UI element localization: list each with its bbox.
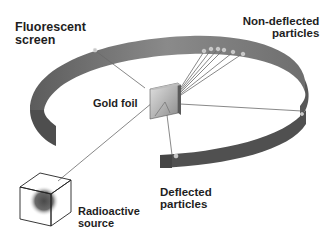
rutherford-gold-foil-diagram: Fluorescent screen Non-deflected particl… bbox=[0, 0, 329, 245]
label-deflected-particles: Deflected particles bbox=[160, 186, 212, 210]
label-line: screen bbox=[15, 34, 86, 47]
label-line: particles bbox=[232, 27, 319, 39]
label-line: Deflected bbox=[160, 186, 212, 198]
label-line: source bbox=[78, 218, 140, 230]
label-line: Non-deflected bbox=[232, 15, 319, 27]
gold-foil bbox=[150, 83, 181, 119]
label-line: Radioactive bbox=[78, 206, 140, 218]
radioactive-source-cube bbox=[20, 173, 71, 226]
label-fluorescent-screen: Fluorescent screen bbox=[15, 21, 86, 47]
label-non-deflected-particles: Non-deflected particles bbox=[232, 15, 319, 39]
label-gold-foil: Gold foil bbox=[93, 98, 138, 110]
label-radioactive-source: Radioactive source bbox=[78, 206, 140, 229]
label-line: particles bbox=[160, 198, 212, 210]
